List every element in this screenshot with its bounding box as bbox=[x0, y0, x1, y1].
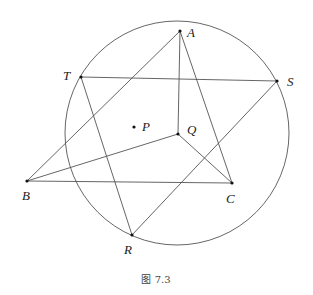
point-label-p: P bbox=[141, 119, 150, 134]
point-c bbox=[230, 181, 233, 184]
segment-ac bbox=[180, 31, 232, 183]
point-label-s: S bbox=[287, 74, 294, 89]
point-a bbox=[178, 29, 181, 32]
geometry-figure: ATSPQBCR 图 7.3 bbox=[0, 0, 313, 295]
segment-aq bbox=[178, 31, 180, 134]
point-t bbox=[79, 75, 82, 78]
segment-tr bbox=[81, 77, 132, 235]
figure-caption: 图 7.3 bbox=[141, 274, 170, 285]
point-label-b: B bbox=[22, 188, 30, 203]
point-s bbox=[275, 79, 278, 82]
point-label-a: A bbox=[186, 25, 195, 40]
point-b bbox=[25, 179, 28, 182]
segment-bq bbox=[27, 134, 178, 181]
point-q bbox=[176, 132, 179, 135]
point-label-r: R bbox=[123, 242, 132, 257]
segment-rs bbox=[132, 81, 277, 235]
segment-ab bbox=[27, 31, 180, 181]
point-p bbox=[132, 125, 135, 128]
point-r bbox=[130, 233, 133, 236]
point-label-q: Q bbox=[187, 122, 197, 137]
point-label-c: C bbox=[226, 191, 235, 206]
point-label-t: T bbox=[63, 68, 71, 83]
segment-bc bbox=[27, 181, 232, 183]
